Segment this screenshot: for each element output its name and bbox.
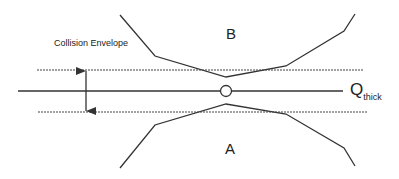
collision-envelope-diagram — [0, 0, 399, 179]
region-b-label: B — [226, 25, 236, 42]
configuration-point-circle — [221, 86, 232, 97]
q-subscript-text: thick — [363, 92, 382, 102]
q-thick-label: Qthick — [350, 80, 382, 100]
obstacle-a-boundary — [120, 104, 355, 168]
collision-envelope-label: Collision Envelope — [54, 38, 128, 48]
q-main-text: Q — [350, 80, 363, 99]
region-a-label: A — [225, 140, 235, 157]
obstacle-b-boundary — [120, 14, 355, 77]
